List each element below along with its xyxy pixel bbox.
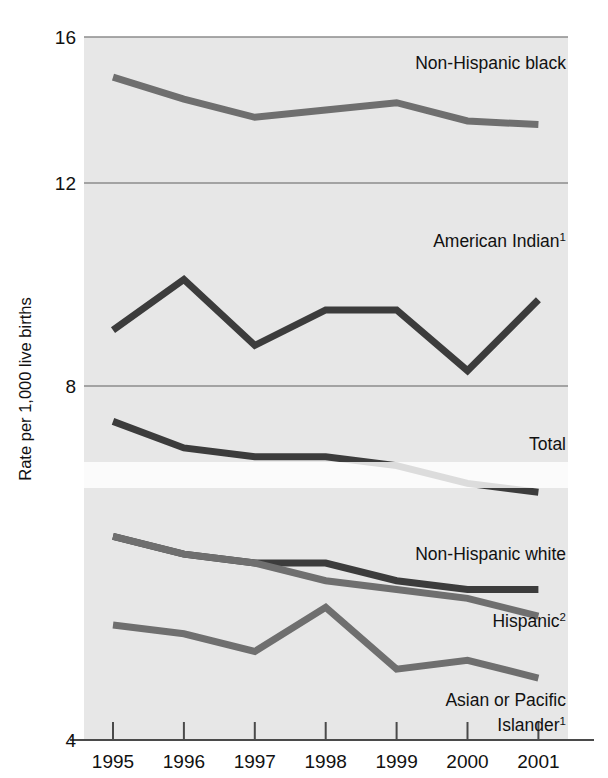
x-axis-tick-labels: 1995199619971998199920002001	[92, 751, 560, 772]
footnote-marker: 1	[560, 231, 566, 243]
y-tick-label-4: 4	[65, 730, 76, 751]
x-tick-label-2000: 2000	[446, 751, 488, 772]
footnote-marker: 1	[560, 715, 566, 727]
plot-background	[84, 37, 568, 740]
y-axis-title: Rate per 1,000 live births	[16, 297, 34, 480]
series-label-asian-or-pacific-islander-line1: Asian or Pacific	[445, 690, 566, 710]
x-tick-label-1999: 1999	[375, 751, 417, 772]
y-tick-label-12: 12	[55, 173, 76, 194]
x-tick-label-1997: 1997	[234, 751, 276, 772]
series-label-non-hispanic-black: Non-Hispanic black	[415, 53, 566, 73]
series-label-asian-or-pacific-islander-line2: Islander1	[497, 715, 566, 735]
infant-mortality-line-chart: 161284 1995199619971998199920002001 Rate…	[0, 0, 608, 778]
y-tick-label-16: 16	[55, 27, 76, 48]
x-tick-label-1996: 1996	[163, 751, 205, 772]
chart-canvas: 161284 1995199619971998199920002001 Rate…	[0, 0, 608, 778]
x-tick-label-1995: 1995	[92, 751, 134, 772]
series-label-american-indian: American Indian1	[433, 231, 566, 251]
y-axis-tick-labels: 161284	[55, 27, 77, 751]
footnote-marker: 2	[560, 611, 566, 623]
series-label-total: Total	[529, 434, 566, 454]
series-label-non-hispanic-white: Non-Hispanic white	[415, 544, 566, 564]
series-label-hispanic: Hispanic2	[492, 611, 566, 631]
x-tick-label-1998: 1998	[305, 751, 347, 772]
x-tick-label-2001: 2001	[517, 751, 559, 772]
y-tick-label-8: 8	[65, 376, 76, 397]
